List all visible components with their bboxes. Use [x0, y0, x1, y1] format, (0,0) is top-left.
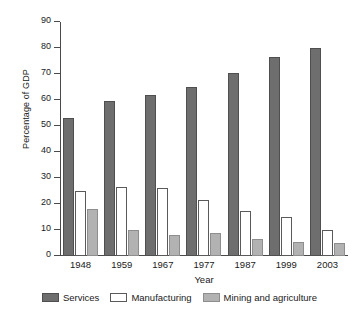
y-axis-tick-label: 10 [41, 222, 51, 235]
bar-services-2003 [310, 48, 321, 256]
legend-item-services: Services [42, 292, 99, 303]
legend-swatch-manufacturing-icon [110, 293, 127, 302]
plot-area: 0102030405060708090 [60, 22, 348, 256]
x-axis-tick-label: 1999 [266, 259, 307, 270]
bar-manufacturing-1967 [157, 188, 168, 256]
legend-label: Manufacturing [131, 292, 191, 303]
bar-manufacturing-1948 [75, 191, 86, 256]
bar-group-1999 [266, 22, 307, 256]
x-axis-tick-labels: 1948195919671977198719992003 [60, 259, 348, 270]
bar-mining-1987 [252, 239, 263, 256]
bar-mining-1999 [293, 242, 304, 256]
legend-label: Mining and agriculture [224, 292, 317, 303]
bar-mining-1977 [210, 233, 221, 256]
bar-services-1999 [269, 57, 280, 256]
x-axis-tick-label: 1967 [142, 259, 183, 270]
x-axis-title: Year [60, 274, 348, 285]
bar-mining-1967 [169, 235, 180, 256]
legend-item-manufacturing: Manufacturing [110, 292, 191, 303]
x-axis-tick-label: 1948 [60, 259, 101, 270]
bar-mining-1959 [128, 230, 139, 256]
x-axis-tick-label: 1959 [101, 259, 142, 270]
bar-services-1977 [186, 87, 197, 256]
y-axis-title: Percentage of GDP [21, 39, 31, 179]
legend-swatch-mining-icon [203, 293, 220, 302]
y-axis-tick-label: 50 [41, 118, 51, 131]
bar-services-1987 [228, 73, 239, 256]
bar-manufacturing-1977 [198, 200, 209, 256]
x-axis-tick-label: 1987 [225, 259, 266, 270]
x-axis-tick-label: 2003 [307, 259, 348, 270]
y-axis-tick-label: 0 [46, 248, 51, 261]
bar-manufacturing-2003 [322, 230, 333, 256]
bar-manufacturing-1987 [240, 211, 251, 257]
bar-mining-2003 [334, 243, 345, 256]
bar-mining-1948 [87, 209, 98, 256]
legend-label: Services [63, 292, 99, 303]
legend-item-mining: Mining and agriculture [203, 292, 317, 303]
bar-group-1967 [142, 22, 183, 256]
legend-swatch-services-icon [42, 293, 59, 302]
y-axis-tick-label: 60 [41, 92, 51, 105]
bar-chart-figure: Percentage of GDP 0102030405060708090 19… [0, 0, 359, 320]
y-axis-tick-label: 80 [41, 40, 51, 53]
bar-manufacturing-1999 [281, 217, 292, 256]
bar-group-1948 [60, 22, 101, 256]
chart-legend: ServicesManufacturingMining and agricult… [0, 292, 359, 303]
bar-services-1959 [104, 101, 115, 256]
bar-group-1987 [225, 22, 266, 256]
y-axis-tick-label: 30 [41, 170, 51, 183]
x-axis-tick-label: 1977 [183, 259, 224, 270]
y-axis-tick-label: 20 [41, 196, 51, 209]
y-axis-tick-label: 40 [41, 144, 51, 157]
bar-manufacturing-1959 [116, 187, 127, 256]
bar-groups [60, 22, 348, 256]
bar-group-1959 [101, 22, 142, 256]
bar-group-1977 [183, 22, 224, 256]
y-axis-tick-label: 70 [41, 66, 51, 79]
y-axis-tick-label: 90 [41, 14, 51, 27]
bar-group-2003 [307, 22, 348, 256]
bar-services-1967 [145, 95, 156, 256]
bar-services-1948 [63, 118, 74, 256]
